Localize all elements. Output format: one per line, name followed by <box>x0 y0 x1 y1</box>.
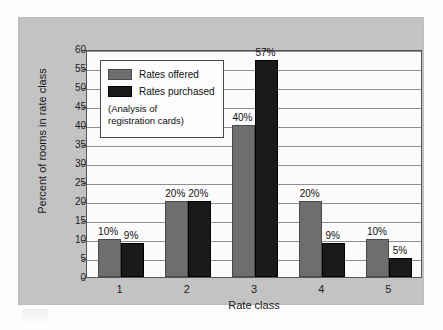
bar-value-label: 10% <box>356 227 398 237</box>
bar-purchased-class-5 <box>389 258 412 277</box>
bar-offered-class-3 <box>232 125 255 277</box>
bar-value-label: 9% <box>110 231 152 241</box>
x-tick-label-5: 5 <box>368 283 408 295</box>
legend-note-line-1: (Analysis of <box>108 103 216 115</box>
legend-item-rates-offered: Rates offered <box>108 67 216 82</box>
y-tick-mark <box>82 278 86 279</box>
x-tick-label-1: 1 <box>100 283 140 295</box>
bar-purchased-class-3 <box>255 60 278 277</box>
bar-value-label: 20% <box>289 189 331 199</box>
x-tick-label-2: 2 <box>167 283 207 295</box>
legend-label-offered: Rates offered <box>139 69 199 80</box>
bar-value-label: 57% <box>245 48 287 58</box>
bar-purchased-class-2 <box>188 201 211 277</box>
chart-legend: Rates offered Rates purchased (Analysis … <box>100 60 224 138</box>
legend-swatch-icon-offered <box>108 69 132 80</box>
bar-value-label: 20% <box>177 189 219 199</box>
bar-value-label: 9% <box>312 231 354 241</box>
x-axis-title: Rate class <box>86 299 422 311</box>
y-tick-label: 50 <box>42 83 86 93</box>
scan-artifact <box>22 309 48 323</box>
bar-value-label: 5% <box>379 246 421 256</box>
bar-offered-class-5 <box>366 239 389 277</box>
y-tick-label: 30 <box>42 159 86 169</box>
y-tick-label: 55 <box>42 64 86 74</box>
legend-item-rates-purchased: Rates purchased <box>108 84 216 99</box>
y-tick-label: 10 <box>42 235 86 245</box>
y-tick-label: 45 <box>42 102 86 112</box>
y-tick-label: 5 <box>42 254 86 264</box>
legend-note-line-2: registration cards) <box>108 115 216 127</box>
figure-panel: Percent of rooms in rate class 051015202… <box>18 17 424 305</box>
chart-figure: Percent of rooms in rate class 051015202… <box>0 0 443 330</box>
y-tick-label: 20 <box>42 197 86 207</box>
legend-swatch-icon-purchased <box>108 86 132 97</box>
y-tick-label: 40 <box>42 121 86 131</box>
bar-offered-class-2 <box>165 201 188 277</box>
y-tick-label: 15 <box>42 216 86 226</box>
y-tick-label: 60 <box>42 45 86 55</box>
legend-note: (Analysis of registration cards) <box>108 103 216 127</box>
x-tick-label-4: 4 <box>301 283 341 295</box>
bar-purchased-class-4 <box>322 243 345 277</box>
bar-purchased-class-1 <box>121 243 144 277</box>
bar-value-label: 40% <box>222 113 264 123</box>
bar-offered-class-1 <box>98 239 121 277</box>
y-axis-ticks: 051015202530354045505560 <box>36 50 86 278</box>
x-tick-label-3: 3 <box>234 283 274 295</box>
legend-label-purchased: Rates purchased <box>139 86 215 97</box>
y-tick-label: 35 <box>42 140 86 150</box>
y-tick-label: 25 <box>42 178 86 188</box>
y-tick-label: 0 <box>42 273 86 283</box>
